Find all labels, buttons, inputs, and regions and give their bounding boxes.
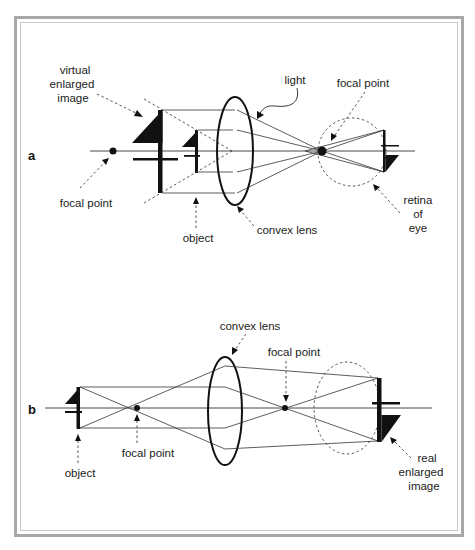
svg-text:focal point: focal point bbox=[60, 197, 113, 209]
svg-text:object: object bbox=[183, 232, 214, 244]
arrowhead-icon bbox=[283, 395, 289, 402]
svg-text:enlarged: enlarged bbox=[399, 466, 444, 478]
svg-text:image: image bbox=[408, 480, 439, 492]
svg-text:of: of bbox=[413, 208, 423, 220]
panel-a: a bbox=[28, 64, 433, 244]
label-convex-lens-a: convex lens bbox=[237, 206, 318, 236]
svg-text:focal point: focal point bbox=[337, 77, 390, 89]
label-focal-point-left-b: focal point bbox=[122, 414, 175, 459]
label-light: light bbox=[257, 74, 306, 119]
label-object-b: object bbox=[65, 434, 96, 479]
label-virtual-image: virtual enlarged image bbox=[50, 64, 143, 117]
panel-b-label: b bbox=[28, 402, 36, 417]
panel-b: b bbox=[28, 320, 443, 492]
eye-circle-a bbox=[318, 118, 386, 186]
label-focal-point-left-a: focal point bbox=[60, 158, 113, 209]
arrowhead-icon bbox=[75, 434, 81, 441]
svg-text:image: image bbox=[57, 92, 88, 104]
arrowhead-icon bbox=[232, 347, 238, 355]
svg-text:focal point: focal point bbox=[268, 346, 321, 358]
label-object-a: object bbox=[183, 197, 214, 244]
label-focal-point-right-b: focal point bbox=[268, 346, 321, 402]
svg-text:convex lens: convex lens bbox=[220, 320, 281, 332]
label-retina: retina of eye bbox=[373, 184, 433, 234]
svg-text:enlarged: enlarged bbox=[50, 78, 95, 90]
svg-text:object: object bbox=[65, 467, 96, 479]
arrowhead-icon bbox=[102, 158, 109, 165]
real-image-arrow bbox=[372, 378, 401, 442]
svg-text:real: real bbox=[417, 452, 436, 464]
object-arrow-a bbox=[182, 130, 200, 173]
svg-text:light: light bbox=[284, 74, 306, 86]
svg-text:convex lens: convex lens bbox=[257, 224, 318, 236]
svg-text:focal point: focal point bbox=[122, 447, 175, 459]
arrowhead-icon bbox=[193, 197, 199, 204]
svg-text:virtual: virtual bbox=[60, 64, 91, 76]
svg-text:retina: retina bbox=[404, 194, 433, 206]
label-real-image: real enlarged image bbox=[390, 437, 443, 492]
svg-text:eye: eye bbox=[409, 222, 428, 234]
arrowhead-icon bbox=[134, 414, 140, 421]
arrowhead-icon bbox=[237, 206, 244, 213]
panel-a-label: a bbox=[28, 148, 36, 163]
arrowhead-icon bbox=[134, 110, 143, 117]
focal-point-right-a bbox=[318, 147, 327, 156]
virtual-image-arrow bbox=[132, 110, 178, 193]
focal-point-left-a bbox=[110, 148, 117, 155]
lens-diagram: a bbox=[0, 0, 475, 550]
label-focal-point-right-a: focal point bbox=[331, 77, 390, 141]
focal-point-left-b bbox=[134, 405, 140, 411]
focal-point-right-b bbox=[282, 405, 288, 411]
